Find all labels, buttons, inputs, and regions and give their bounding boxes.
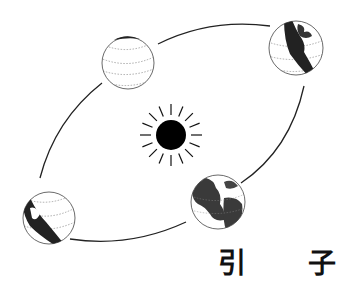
title-char-zi: 子 <box>308 250 336 278</box>
globe-top-left <box>100 36 156 89</box>
sun <box>140 104 202 166</box>
globe-bottom-right <box>191 175 245 230</box>
earth-orbit-diagram <box>0 0 355 296</box>
globe-top-right <box>268 20 324 80</box>
title-char-yin: 引 <box>218 250 246 278</box>
sun-disc <box>156 120 186 150</box>
globe-bottom-left <box>23 192 75 246</box>
land-mass-africa <box>223 198 242 230</box>
